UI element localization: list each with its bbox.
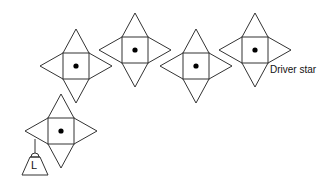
load-label: L — [31, 159, 37, 171]
diagram-canvas — [0, 0, 330, 189]
star-1 — [40, 29, 112, 103]
star-2 — [99, 13, 171, 87]
driver-star — [219, 13, 291, 87]
driver-star-label: Driver star — [270, 64, 316, 75]
star-3 — [160, 29, 232, 103]
